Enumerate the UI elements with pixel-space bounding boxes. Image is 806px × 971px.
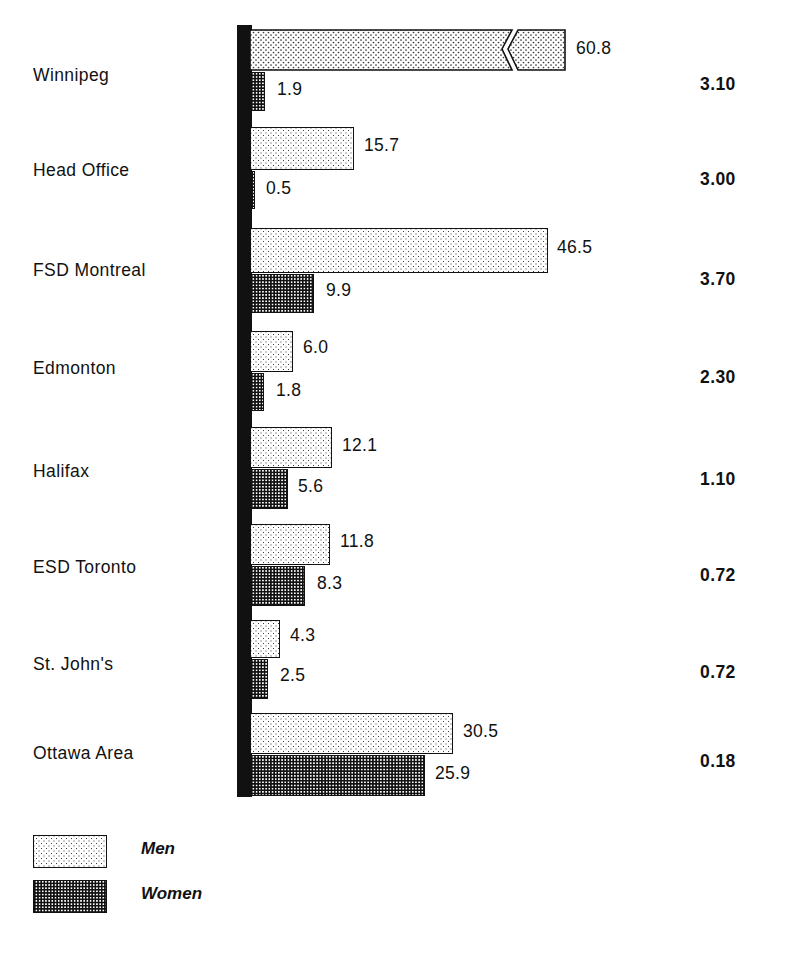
- bar-men-esd-toronto: [250, 524, 330, 565]
- chart-row: FSD Montreal 46.5 9.9 3.70: [0, 228, 806, 328]
- bar-men-st-johns: [250, 620, 280, 658]
- grouped-bar-chart: Winnipeg 60.8 1.9: [0, 0, 806, 971]
- bar-men-halifax: [250, 427, 332, 468]
- bar-women-halifax: [250, 469, 288, 509]
- footnote-clipped: [33, 963, 733, 971]
- bar-men-winnipeg: [250, 29, 566, 71]
- legend-label-men: Men: [141, 839, 175, 859]
- row-rate-ottawa-area: 0.18: [700, 751, 790, 772]
- bar-value-men-edmonton: 6.0: [303, 337, 328, 358]
- legend-item-women: Women: [33, 880, 433, 918]
- row-rate-st-johns: 0.72: [700, 662, 790, 683]
- row-rate-winnipeg: 3.10: [700, 74, 790, 95]
- bar-women-esd-toronto: [250, 566, 305, 606]
- chart-row: ESD Toronto 11.8 8.3 0.72: [0, 524, 806, 624]
- row-rate-fsd-montreal: 3.70: [700, 269, 790, 290]
- row-label-head-office: Head Office: [33, 160, 229, 181]
- bar-women-edmonton: [250, 373, 264, 411]
- chart-row: Halifax 12.1 5.6 1.10: [0, 427, 806, 527]
- bar-women-ottawa-area: [250, 755, 425, 796]
- bar-value-men-winnipeg: 60.8: [576, 38, 611, 59]
- legend-swatch-men: [33, 835, 107, 868]
- row-label-fsd-montreal: FSD Montreal: [33, 260, 229, 281]
- bar-value-men-fsd-montreal: 46.5: [557, 237, 592, 258]
- bar-women-st-johns: [250, 659, 268, 699]
- row-label-halifax: Halifax: [33, 461, 229, 482]
- bar-value-women-st-johns: 2.5: [280, 665, 305, 686]
- bar-men-fsd-montreal: [250, 228, 548, 273]
- legend-label-women: Women: [141, 884, 202, 904]
- bar-value-men-halifax: 12.1: [342, 435, 377, 456]
- chart-row: St. John's 4.3 2.5 0.72: [0, 620, 806, 720]
- row-label-esd-toronto: ESD Toronto: [33, 557, 229, 578]
- bar-value-men-head-office: 15.7: [364, 135, 399, 156]
- row-label-winnipeg: Winnipeg: [33, 65, 229, 86]
- bar-value-women-edmonton: 1.8: [276, 380, 301, 401]
- row-label-edmonton: Edmonton: [33, 358, 229, 379]
- row-rate-head-office: 3.00: [700, 169, 790, 190]
- row-label-st-johns: St. John's: [33, 654, 229, 675]
- bar-value-women-halifax: 5.6: [298, 476, 323, 497]
- bar-women-head-office: [250, 171, 255, 209]
- bar-value-men-st-johns: 4.3: [290, 625, 315, 646]
- bar-women-fsd-montreal: [250, 274, 314, 313]
- bar-value-women-winnipeg: 1.9: [277, 79, 302, 100]
- plot-area: Winnipeg 60.8 1.9: [0, 0, 806, 810]
- bar-men-head-office: [250, 127, 354, 170]
- chart-row: Winnipeg 60.8 1.9: [0, 25, 806, 125]
- chart-row: Head Office 15.7 0.5 3.00: [0, 127, 806, 227]
- bar-men-ottawa-area: [250, 713, 453, 754]
- row-rate-halifax: 1.10: [700, 469, 790, 490]
- bar-value-women-esd-toronto: 8.3: [317, 573, 342, 594]
- legend-swatch-women: [33, 880, 107, 913]
- broken-bar-shape: [250, 29, 566, 71]
- row-rate-esd-toronto: 0.72: [700, 565, 790, 586]
- bar-value-women-head-office: 0.5: [266, 178, 291, 199]
- row-rate-edmonton: 2.30: [700, 367, 790, 388]
- chart-row: Edmonton 6.0 1.8 2.30: [0, 331, 806, 431]
- bar-value-men-ottawa-area: 30.5: [463, 721, 498, 742]
- row-label-ottawa-area: Ottawa Area: [33, 743, 229, 764]
- bar-value-women-fsd-montreal: 9.9: [326, 280, 351, 301]
- bar-women-winnipeg: [250, 72, 265, 111]
- bar-men-edmonton: [250, 331, 293, 372]
- legend: Men Women: [33, 835, 433, 918]
- bar-value-women-ottawa-area: 25.9: [435, 763, 470, 784]
- bar-value-men-esd-toronto: 11.8: [340, 531, 374, 552]
- chart-row: Ottawa Area 30.5 25.9 0.18: [0, 713, 806, 813]
- legend-item-men: Men: [33, 835, 433, 873]
